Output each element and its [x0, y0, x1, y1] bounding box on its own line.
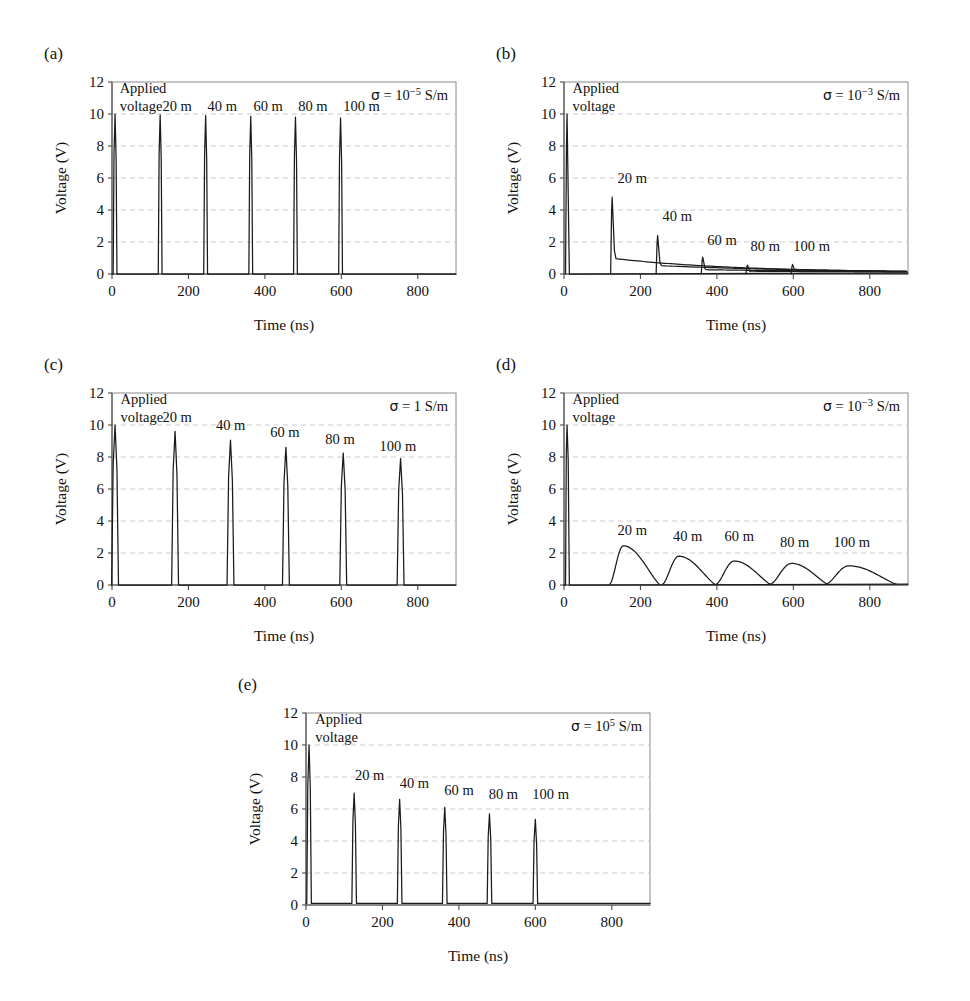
- ytick-label: 4: [97, 202, 105, 218]
- xtick-label: 0: [560, 283, 568, 299]
- ytick-label: 2: [549, 545, 557, 561]
- y-axis-title: Voltage (V): [246, 773, 264, 845]
- xtick-label: 0: [108, 594, 116, 610]
- series-annotation: voltage: [572, 409, 615, 425]
- series-annotation: voltage: [120, 409, 163, 425]
- series-annotation: 60 m: [270, 424, 300, 440]
- ytick-label: 10: [89, 417, 104, 433]
- ytick-label: 8: [97, 449, 105, 465]
- ytick-label: 4: [97, 513, 105, 529]
- ytick-label: 8: [549, 138, 557, 154]
- series-annotation: 40 m: [216, 417, 246, 433]
- xtick-label: 600: [330, 283, 353, 299]
- ytick-label: 12: [89, 385, 104, 401]
- xtick-label: 400: [254, 283, 277, 299]
- ytick-label: 2: [549, 234, 557, 250]
- series-annotation: 60 m: [725, 528, 755, 544]
- series-annotation: 100 m: [793, 238, 830, 254]
- panel-label-e: (e): [238, 675, 257, 695]
- ytick-label: 2: [291, 865, 299, 881]
- series-annotation: 80 m: [751, 238, 781, 254]
- ytick-label: 4: [549, 513, 557, 529]
- xtick-label: 200: [629, 283, 652, 299]
- series-annotation: 60 m: [444, 782, 474, 798]
- sigma-annotation: σ = 10−5 S/m: [371, 86, 449, 103]
- ytick-label: 6: [549, 170, 557, 186]
- ytick-label: 8: [97, 138, 105, 154]
- xtick-label: 600: [524, 914, 547, 930]
- series-annotation: voltage: [120, 98, 163, 114]
- sigma-annotation: σ = 10−3 S/m: [823, 86, 901, 103]
- ytick-label: 6: [549, 481, 557, 497]
- series-annotation: 80 m: [325, 431, 355, 447]
- data-curve: [770, 563, 827, 584]
- xtick-label: 0: [302, 914, 310, 930]
- series-annotation: 60 m: [707, 232, 737, 248]
- x-axis-title: Time (ns): [706, 316, 766, 334]
- ytick-label: 6: [97, 170, 105, 186]
- plot-e: 0246810120200400600800Time (ns)Voltage (…: [244, 693, 664, 971]
- series-annotation: 40 m: [673, 528, 703, 544]
- series-annotation: 80 m: [489, 786, 519, 802]
- panel-label-c: (c): [44, 355, 63, 375]
- xtick-label: 200: [177, 594, 200, 610]
- series-annotation: Applied: [572, 391, 619, 407]
- ytick-label: 10: [283, 737, 298, 753]
- data-curve: [716, 561, 770, 584]
- series-annotation: 100 m: [532, 786, 569, 802]
- plot-b: 0246810120200400600800Time (ns)Voltage (…: [502, 62, 922, 340]
- ytick-label: 12: [283, 705, 298, 721]
- series-annotation: 80 m: [298, 98, 328, 114]
- ytick-label: 0: [291, 897, 299, 913]
- ytick-label: 10: [541, 106, 556, 122]
- data-curve: [566, 114, 908, 274]
- y-axis-title: Voltage (V): [52, 142, 70, 214]
- series-annotation: 40 m: [663, 208, 693, 224]
- series-annotation: Applied: [120, 80, 167, 96]
- xtick-label: 0: [108, 283, 116, 299]
- series-annotation: 20 m: [355, 767, 385, 783]
- xtick-label: 400: [448, 914, 471, 930]
- x-axis-title: Time (ns): [254, 627, 314, 645]
- ytick-label: 12: [89, 74, 104, 90]
- xtick-label: 600: [782, 594, 805, 610]
- ytick-label: 6: [97, 481, 105, 497]
- ytick-label: 2: [97, 545, 105, 561]
- series-annotation: 60 m: [253, 98, 283, 114]
- x-axis-title: Time (ns): [706, 627, 766, 645]
- data-curve: [610, 546, 659, 584]
- series-annotation: Applied: [120, 391, 167, 407]
- xtick-label: 800: [859, 594, 882, 610]
- y-axis-title: Voltage (V): [504, 142, 522, 214]
- series-annotation: 20 m: [618, 522, 648, 538]
- panel-label-b: (b): [496, 44, 516, 64]
- plot-d: 0246810120200400600800Time (ns)Voltage (…: [502, 373, 922, 651]
- ytick-label: 0: [97, 266, 105, 282]
- ytick-label: 12: [541, 74, 556, 90]
- xtick-label: 800: [859, 283, 882, 299]
- sigma-annotation: σ = 105 S/m: [571, 717, 643, 734]
- ytick-label: 8: [549, 449, 557, 465]
- series-annotation: 20 m: [618, 170, 648, 186]
- ytick-label: 0: [549, 266, 557, 282]
- series-annotation: 20 m: [162, 98, 192, 114]
- series-annotation: 100 m: [380, 438, 417, 454]
- xtick-label: 600: [782, 283, 805, 299]
- data-curve: [611, 197, 907, 274]
- xtick-label: 200: [629, 594, 652, 610]
- series-annotation: Applied: [315, 711, 362, 727]
- ytick-label: 2: [97, 234, 105, 250]
- xtick-label: 400: [706, 283, 729, 299]
- x-axis-title: Time (ns): [254, 316, 314, 334]
- series-annotation: voltage: [572, 98, 615, 114]
- xtick-label: 800: [407, 283, 430, 299]
- y-axis-title: Voltage (V): [52, 453, 70, 525]
- ytick-label: 10: [541, 417, 556, 433]
- series-annotation: 80 m: [780, 534, 810, 550]
- ytick-label: 6: [291, 801, 299, 817]
- ytick-label: 4: [549, 202, 557, 218]
- ytick-label: 0: [549, 577, 557, 593]
- sigma-annotation: σ = 1 S/m: [389, 398, 448, 414]
- series-annotation: 100 m: [343, 98, 380, 114]
- ytick-label: 0: [97, 577, 105, 593]
